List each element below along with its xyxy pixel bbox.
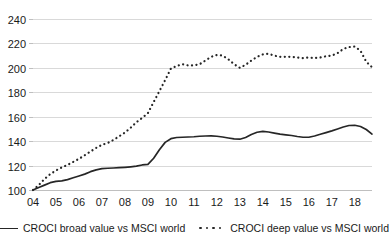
legend-item-deep-value: CROCI deep value vs MSCI world	[195, 223, 389, 234]
x-axis-tick-label: 05	[50, 196, 62, 208]
y-axis-tick-label: 180	[8, 87, 26, 99]
y-axis-tick-label: 140	[8, 136, 26, 148]
x-axis-tick-label: 13	[234, 196, 246, 208]
x-axis-tick-label: 08	[119, 196, 131, 208]
y-axis-tick-label: 100	[8, 185, 26, 197]
plot-area: 240220200180160140120100 040506070809101…	[0, 0, 377, 212]
x-axis-tick-labels: 040506070809101112131415161718	[27, 196, 361, 208]
x-axis-tick-label: 11	[188, 196, 199, 208]
x-axis-tick-label: 09	[142, 196, 154, 208]
x-axis-tick-label: 10	[165, 196, 177, 208]
y-axis-tick-label: 160	[8, 112, 26, 124]
x-axis-tick-label: 16	[303, 196, 315, 208]
legend-item-broad-value: CROCI broad value vs MSCI world	[0, 223, 185, 234]
x-axis-tick-label: 17	[326, 196, 338, 208]
y-axis-tick-label: 200	[8, 63, 26, 75]
legend-label-broad-value: CROCI broad value vs MSCI world	[23, 223, 185, 234]
dotted-line-swatch-icon	[195, 227, 225, 229]
x-axis-tick-label: 04	[27, 196, 39, 208]
chart-svg: 240220200180160140120100 040506070809101…	[0, 0, 377, 212]
y-axis-tick-label: 220	[8, 38, 26, 50]
gridlines	[29, 20, 372, 191]
x-axis-tick-label: 06	[73, 196, 85, 208]
chart-legend: CROCI broad value vs MSCI world CROCI de…	[0, 214, 377, 242]
y-axis-tick-label: 120	[8, 161, 26, 173]
x-axis-tick-label: 14	[257, 196, 269, 208]
x-axis-tick-label: 07	[96, 196, 108, 208]
x-axis-tick-label: 15	[280, 196, 292, 208]
y-axis-tick-labels: 240220200180160140120100	[8, 14, 26, 197]
y-axis-tick-label: 240	[8, 14, 26, 26]
x-axis-tick-label: 12	[211, 196, 223, 208]
x-axis-tick-label: 18	[349, 196, 361, 208]
solid-line-swatch-icon	[0, 228, 18, 229]
series-line-broad-value	[33, 125, 372, 190]
legend-label-deep-value: CROCI deep value vs MSCI world	[230, 223, 389, 234]
